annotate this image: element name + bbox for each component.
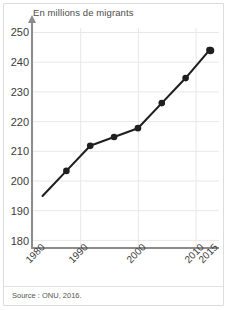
chart-figure: En millions de migrants 250 240 230 220 … [0, 0, 228, 310]
source-note: Source : ONU, 2016. [12, 291, 82, 300]
source-divider [4, 286, 223, 287]
x-axis-tick-labels: 1980 1990 2000 2010 2015 [0, 0, 228, 310]
x-tick-label: 1990 [67, 242, 90, 265]
x-tick-label: 1980 [24, 242, 47, 265]
x-tick-label: 2000 [125, 242, 148, 265]
